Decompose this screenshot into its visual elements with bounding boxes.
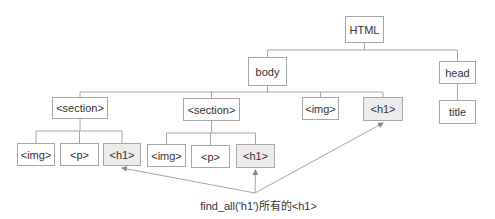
arrow-to-h1a (122, 168, 255, 193)
node-img-body: <img> (302, 97, 339, 120)
find-all-caption: find_all('h1')所有的<h1> (0, 197, 495, 213)
node-img-section-1: <img> (17, 143, 55, 166)
node-section-2: <section> (183, 98, 240, 121)
arrow-to-h1b (255, 170, 256, 193)
node-body: body (248, 57, 287, 86)
dom-tree-diagram: HTML body head <section> <section> <img>… (0, 0, 495, 219)
node-h1-body: <h1> (363, 97, 403, 121)
node-p-section-2: <p> (191, 145, 230, 168)
node-head: head (439, 61, 476, 84)
node-img-section-2: <img> (147, 144, 186, 167)
node-title: title (439, 100, 476, 124)
node-p-section-1: <p> (60, 143, 99, 166)
node-h1-section-1: <h1> (103, 143, 141, 166)
node-h1-section-2: <h1> (236, 144, 275, 168)
node-html: HTML (345, 16, 384, 43)
node-section-1: <section> (52, 97, 108, 119)
